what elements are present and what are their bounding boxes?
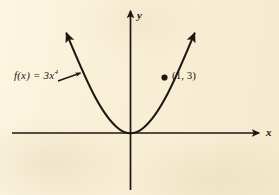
figure-container: f(x) = 3x4 (1, 3) y x bbox=[0, 0, 279, 195]
curve-left-branch bbox=[67, 34, 131, 134]
function-label-expression: f(x) = 3x bbox=[14, 69, 54, 81]
function-label: f(x) = 3x4 bbox=[14, 70, 58, 81]
marked-point-dot bbox=[161, 74, 167, 80]
curve-right-branch bbox=[131, 34, 195, 134]
point-coordinate-label: (1, 3) bbox=[172, 70, 196, 81]
y-axis-label: y bbox=[137, 10, 142, 21]
function-label-exponent: 4 bbox=[54, 68, 58, 76]
x-axis-label: x bbox=[266, 127, 272, 138]
function-callout-arrow bbox=[58, 73, 81, 81]
graph-canvas bbox=[0, 0, 279, 195]
